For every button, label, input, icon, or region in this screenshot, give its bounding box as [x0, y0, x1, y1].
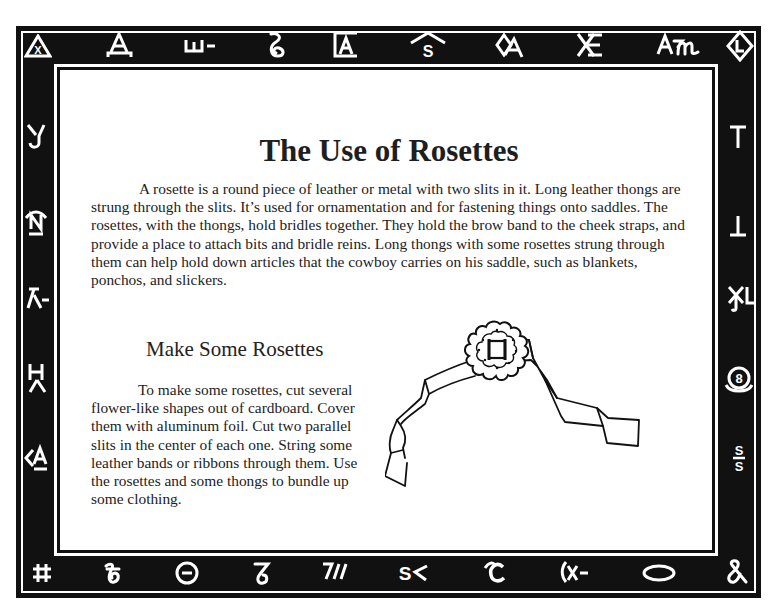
svg-text:S: S [735, 443, 744, 458]
brand-icon-x-in-triangle: X [16, 34, 60, 58]
brand-icon-curly-b [91, 561, 135, 585]
svg-text:S: S [423, 43, 434, 58]
brand-icon-less-a-bar [15, 444, 59, 472]
brand-icon-rafter-c [473, 559, 517, 585]
brand-icon-8-in-circle-rocker: 8 [717, 365, 761, 395]
svg-text:8: 8 [735, 371, 742, 386]
brand-icon-w-bar [178, 38, 222, 54]
svg-text:S: S [735, 459, 744, 474]
activity-instructions: To make some rosettes, cut several flowe… [91, 381, 359, 508]
brand-icon-paren-x-bar [552, 560, 596, 584]
brand-icon-j-y [14, 122, 58, 150]
brand-icon-am [656, 33, 700, 57]
svg-text:S: S [399, 563, 412, 583]
brand-icon-inverted-t [716, 214, 760, 238]
brand-icon-a-box [324, 30, 368, 58]
brand-icon-l-diamond [718, 30, 762, 62]
brand-icon-lazy-s-curl [255, 31, 299, 59]
brand-icon-lambda-bar [16, 285, 60, 311]
brand-icon-oval [637, 563, 681, 583]
page-title: The Use of Rosettes [60, 133, 718, 169]
brand-icon-h-lambda [15, 362, 59, 394]
brand-icon-pretzel-ampersand [716, 559, 760, 585]
brand-icon-hash [20, 562, 64, 584]
brand-icon-n-rafter-bar [14, 207, 58, 237]
rosette-illustration [385, 318, 655, 493]
brand-icon-s-less: S [392, 561, 436, 583]
brand-icon-t [716, 124, 760, 150]
brand-icon-a-bar [97, 32, 141, 58]
brand-icon-curly-7 [240, 560, 284, 586]
intro-paragraph: A rosette is a round piece of leather or… [91, 180, 691, 289]
brand-border-frame [16, 26, 761, 598]
svg-text:X: X [34, 44, 42, 56]
brand-icon-7-slash-slash [313, 560, 357, 582]
brand-icon-s-bar-s: SS [717, 442, 761, 474]
brand-icon-s-rafter: S [406, 30, 450, 58]
brand-icon-x-e [568, 32, 612, 58]
brand-icon-bar-in-circle [165, 560, 209, 586]
brand-icon-xl [720, 284, 764, 312]
brand-icon-a-diamond [488, 33, 532, 59]
activity-heading: Make Some Rosettes [146, 337, 323, 362]
